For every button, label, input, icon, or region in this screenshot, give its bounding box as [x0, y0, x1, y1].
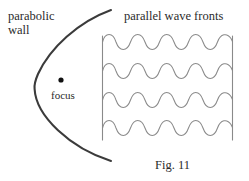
parallel-wave-fronts-label: parallel wave fronts [124, 9, 223, 23]
figure-caption: Fig. 11 [155, 158, 190, 172]
figure-container: parabolic wall parallel wave fronts focu… [0, 0, 249, 181]
wave-front-line [103, 64, 233, 79]
focus-dot [58, 77, 63, 82]
parabolic-wall-label: parabolic wall [8, 9, 84, 37]
wave-front-line [103, 35, 233, 50]
wave-front-line [103, 93, 233, 108]
wave-front-line [103, 121, 233, 136]
focus-label: focus [44, 89, 82, 101]
